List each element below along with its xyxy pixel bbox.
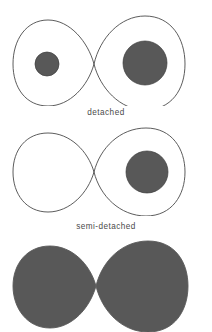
primary-star — [35, 52, 59, 76]
roche-lobe-outline-contact — [0, 240, 212, 332]
secondary-star — [123, 41, 167, 85]
left-roche-lobe-filled — [13, 246, 96, 328]
binary-star-figure-stack: detached semi-detached — [0, 0, 212, 332]
roche-lobe-outline-detached — [0, 8, 212, 106]
caption-semi-detached: semi-detached — [0, 222, 212, 231]
caption-detached: detached — [0, 108, 212, 117]
left-roche-lobe — [13, 133, 94, 212]
figure-semi-detached — [0, 124, 212, 224]
right-roche-lobe-filled — [96, 241, 188, 332]
figure-detached — [0, 8, 212, 108]
filled-lobe-star — [126, 151, 168, 193]
figure-contact — [0, 240, 212, 332]
roche-lobe-outline-semi-detached — [0, 124, 212, 216]
